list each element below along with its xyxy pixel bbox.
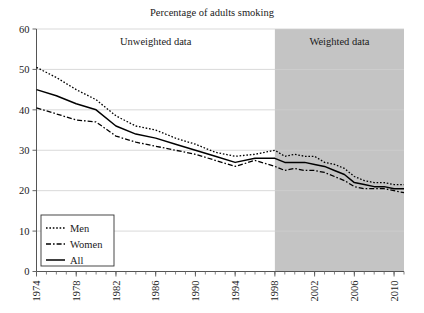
x-tick-label-1974: 1974 (31, 280, 42, 302)
smoking-percentage-line-chart: 0102030405060 19741978198219861990199419… (0, 0, 424, 313)
x-tick-label-1982: 1982 (111, 281, 122, 302)
x-tick-label-1986: 1986 (150, 281, 161, 302)
x-tick-label-1978: 1978 (71, 281, 82, 302)
y-tick-label-40: 40 (19, 105, 30, 116)
unweighted-data-label: Unweighted data (120, 36, 192, 47)
y-tick-label-20: 20 (19, 185, 30, 196)
chart-legend: MenWomenAll (41, 215, 114, 266)
weighted-data-label: Weighted data (309, 36, 369, 47)
x-tick-label-2010: 2010 (389, 281, 400, 302)
legend-label-men: Men (70, 223, 90, 234)
x-tick-label-1994: 1994 (230, 280, 241, 302)
y-tick-label-10: 10 (19, 226, 30, 237)
y-tick-label-50: 50 (19, 64, 30, 75)
chart-title: Percentage of adults smoking (150, 7, 275, 18)
x-tick-label-1998: 1998 (269, 281, 280, 302)
x-tick-label-1990: 1990 (190, 281, 201, 302)
y-tick-label-30: 30 (19, 145, 30, 156)
x-tick-label-2002: 2002 (309, 281, 320, 302)
x-tick-label-2006: 2006 (349, 281, 360, 302)
legend-label-women: Women (70, 239, 103, 250)
legend-label-all: All (70, 255, 84, 266)
y-tick-label-0: 0 (24, 266, 29, 277)
y-tick-label-60: 60 (19, 24, 30, 35)
chart-container: 0102030405060 19741978198219861990199419… (0, 0, 424, 313)
